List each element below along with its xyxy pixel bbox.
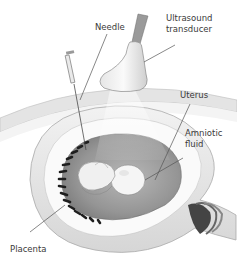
label-amniotic-fluid: Amniotic fluid [185, 128, 222, 150]
label-uterus: Uterus [180, 90, 208, 101]
label-amniotic-line1: Amniotic [185, 128, 222, 139]
label-transducer-line1: Ultrasound [166, 13, 212, 24]
label-ultrasound-transducer: Ultrasound transducer [166, 13, 212, 35]
label-transducer-line2: transducer [166, 24, 212, 35]
label-placenta: Placenta [10, 244, 47, 255]
label-amniotic-line2: fluid [185, 139, 222, 150]
label-needle: Needle [95, 22, 125, 33]
amniocentesis-diagram: Needle Ultrasound transducer Uterus Amni… [0, 0, 237, 268]
